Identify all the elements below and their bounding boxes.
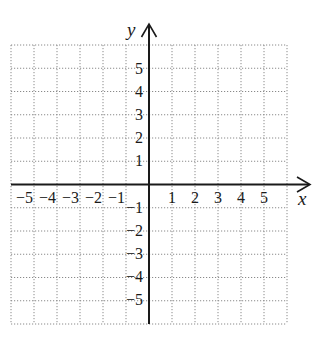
x-tick-label: −1	[108, 189, 125, 206]
y-tick-label: 5	[135, 60, 143, 77]
y-tick-label: −4	[126, 268, 143, 285]
x-tick-label: −3	[62, 189, 79, 206]
x-tick-label: 1	[168, 189, 176, 206]
y-tick-label: 3	[135, 106, 143, 123]
y-tick-label: 4	[135, 83, 143, 100]
x-tick-label: 5	[260, 189, 268, 206]
y-tick-label: 1	[135, 152, 143, 169]
x-tick-label: 3	[214, 189, 222, 206]
y-tick-label: −2	[126, 222, 143, 239]
x-tick-label: 2	[191, 189, 199, 206]
y-tick-label: 2	[135, 129, 143, 146]
coordinate-plane: x y −5 −4 −3 −2 −1 1 2 3 4 5 5 4 3 2 1 −…	[0, 0, 335, 345]
x-tick-label: −4	[39, 189, 56, 206]
y-axis-label: y	[125, 19, 136, 40]
x-tick-label: −2	[85, 189, 102, 206]
x-tick-label: −5	[16, 189, 33, 206]
y-tick-label: −5	[126, 291, 143, 308]
x-tick-label: 4	[237, 189, 245, 206]
y-tick-label: −3	[126, 245, 143, 262]
x-axis-label: x	[297, 188, 307, 209]
y-tick-label: −1	[126, 199, 143, 216]
